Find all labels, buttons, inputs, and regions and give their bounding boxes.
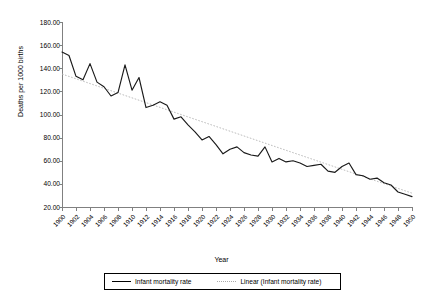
x-axis-tick-mark (188, 208, 189, 211)
x-axis-tick-labels: 1900190219041906190819101912191419161918… (0, 0, 443, 298)
y-axis-tick-mark (59, 115, 62, 116)
x-axis-tick-mark (286, 208, 287, 211)
x-axis-tick-mark (216, 208, 217, 211)
y-axis-tick-mark (59, 22, 62, 23)
x-axis-tick-mark (370, 208, 371, 211)
x-axis-tick-mark (258, 208, 259, 211)
x-axis-tick-mark (412, 208, 413, 211)
x-axis-tick-mark (384, 208, 385, 211)
x-axis-tick-mark (328, 208, 329, 211)
legend-label-series: Infant mortality rate (135, 278, 191, 285)
legend-dotted-swatch-icon (217, 281, 236, 282)
x-axis-tick-mark (174, 208, 175, 211)
x-axis-tick-mark (146, 208, 147, 211)
x-axis-tick-mark (90, 208, 91, 211)
y-axis-tick-mark (59, 45, 62, 46)
x-axis-tick-mark (104, 208, 105, 211)
x-axis-tick-mark (272, 208, 273, 211)
x-axis-tick-mark (160, 208, 161, 211)
x-axis-tick-mark (118, 208, 119, 211)
legend-line-swatch-icon (112, 281, 131, 282)
x-axis-tick-mark (132, 208, 133, 211)
x-axis-tick-mark (230, 208, 231, 211)
x-axis-tick-mark (76, 208, 77, 211)
y-axis-tick-mark (59, 161, 62, 162)
chart-legend: Infant mortality rate Linear (Infant mor… (104, 273, 341, 290)
x-axis-tick-mark (202, 208, 203, 211)
y-axis-tick-mark (59, 138, 62, 139)
x-axis-title: Year (0, 256, 443, 263)
x-axis-tick-mark (398, 208, 399, 211)
legend-label-trendline: Linear (Infant mortality rate) (240, 278, 321, 285)
y-axis-tick-mark (59, 68, 62, 69)
legend-entry-trendline: Linear (Infant mortality rate) (217, 278, 321, 285)
legend-entry-series: Infant mortality rate (112, 278, 191, 285)
y-axis-tick-mark (59, 91, 62, 92)
x-axis-tick-mark (356, 208, 357, 211)
x-axis-tick-mark (300, 208, 301, 211)
x-axis-tick-mark (244, 208, 245, 211)
x-axis-tick-mark (62, 208, 63, 211)
infant-mortality-chart: Deaths per 1000 births 180.00160.00140.0… (0, 0, 443, 298)
x-axis-tick-mark (314, 208, 315, 211)
y-axis-tick-mark (59, 184, 62, 185)
x-axis-tick-mark (342, 208, 343, 211)
